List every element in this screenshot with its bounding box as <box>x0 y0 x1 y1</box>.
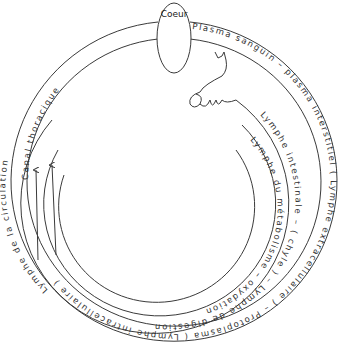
lymph-circulation-diagram: Coeur Plasma sanguin – plasma interstiti… <box>0 0 345 359</box>
arrow-up-icon <box>52 165 56 255</box>
arrow-up-icon <box>36 170 38 260</box>
intestine-icon <box>190 52 236 107</box>
label-canal-thoracique: Canal thoracique <box>20 84 62 180</box>
diagram-svg: Coeur Plasma sanguin – plasma interstiti… <box>0 0 345 359</box>
ring-inner <box>59 150 255 302</box>
heart-label: Coeur <box>161 9 188 19</box>
